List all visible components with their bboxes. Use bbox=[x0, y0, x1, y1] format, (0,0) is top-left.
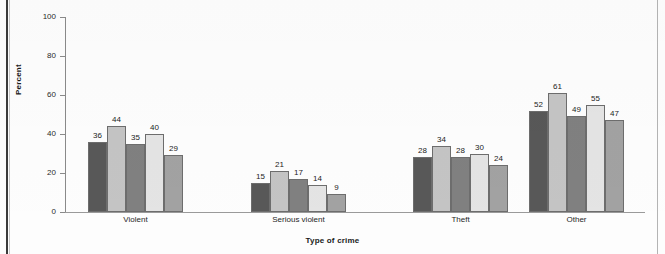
bar-value-label: 28 bbox=[456, 146, 465, 156]
y-tick-label: 40 bbox=[47, 128, 56, 139]
bar-group-other: 5261495547Other bbox=[529, 17, 624, 212]
bar-value-label: 14 bbox=[313, 174, 322, 184]
bar-3[interactable]: 28 bbox=[451, 157, 470, 212]
bar-group-bars: 152117149 bbox=[251, 17, 346, 212]
chart-page: Percent 020406080100 3644354029Violent15… bbox=[0, 0, 665, 254]
bar-value-label: 24 bbox=[494, 154, 503, 164]
bar-value-label: 34 bbox=[437, 135, 446, 145]
y-tick-label: 20 bbox=[47, 167, 56, 178]
bar-slot: 14 bbox=[308, 17, 327, 212]
x-axis-line bbox=[65, 212, 645, 213]
y-tick-label: 0 bbox=[52, 206, 56, 217]
bar-3[interactable]: 35 bbox=[126, 144, 145, 212]
bar-2[interactable]: 34 bbox=[432, 146, 451, 212]
bar-group-violent: 3644354029Violent bbox=[88, 17, 183, 212]
bar-value-label: 30 bbox=[475, 143, 484, 153]
bar-slot: 24 bbox=[489, 17, 508, 212]
page-edge-left-light bbox=[9, 0, 10, 254]
bar-group-theft: 2834283024Theft bbox=[413, 17, 508, 212]
y-tick-mark bbox=[60, 17, 65, 18]
bar-value-label: 28 bbox=[418, 146, 427, 156]
bar-slot: 17 bbox=[289, 17, 308, 212]
page-edge-right bbox=[657, 0, 658, 254]
bar-1[interactable]: 52 bbox=[529, 111, 548, 212]
bar-slot: 61 bbox=[548, 17, 567, 212]
y-tick-label: 60 bbox=[47, 89, 56, 100]
bar-slot: 35 bbox=[126, 17, 145, 212]
y-axis-title: Percent bbox=[14, 64, 23, 95]
category-label: Serious violent bbox=[251, 215, 346, 224]
category-label: Other bbox=[529, 215, 624, 224]
bar-value-label: 21 bbox=[275, 160, 284, 170]
category-label: Violent bbox=[88, 215, 183, 224]
bar-slot: 28 bbox=[413, 17, 432, 212]
bar-slot: 49 bbox=[567, 17, 586, 212]
bar-value-label: 29 bbox=[169, 144, 178, 154]
y-tick-mark bbox=[60, 95, 65, 96]
bar-5[interactable]: 29 bbox=[164, 155, 183, 212]
bar-value-label: 52 bbox=[534, 100, 543, 110]
x-axis-title: Type of crime bbox=[0, 236, 665, 245]
bar-1[interactable]: 15 bbox=[251, 183, 270, 212]
bar-slot: 15 bbox=[251, 17, 270, 212]
bar-1[interactable]: 36 bbox=[88, 142, 107, 212]
bar-value-label: 55 bbox=[591, 94, 600, 104]
y-tick-mark bbox=[60, 212, 65, 213]
bar-value-label: 9 bbox=[334, 183, 338, 193]
bar-slot: 28 bbox=[451, 17, 470, 212]
bar-value-label: 47 bbox=[610, 109, 619, 119]
bar-4[interactable]: 40 bbox=[145, 134, 164, 212]
bar-slot: 40 bbox=[145, 17, 164, 212]
bar-4[interactable]: 55 bbox=[586, 105, 605, 212]
bar-5[interactable]: 47 bbox=[605, 120, 624, 212]
category-label: Theft bbox=[413, 215, 508, 224]
bar-value-label: 40 bbox=[150, 123, 159, 133]
bar-value-label: 44 bbox=[112, 115, 121, 125]
bar-slot: 52 bbox=[529, 17, 548, 212]
y-tick-label: 80 bbox=[47, 50, 56, 61]
page-edge-left-dark bbox=[6, 0, 8, 254]
bar-value-label: 36 bbox=[93, 131, 102, 141]
bar-2[interactable]: 44 bbox=[107, 126, 126, 212]
y-tick-mark bbox=[60, 173, 65, 174]
bar-3[interactable]: 49 bbox=[567, 116, 586, 212]
bar-2[interactable]: 61 bbox=[548, 93, 567, 212]
bar-group-bars: 3644354029 bbox=[88, 17, 183, 212]
bar-slot: 44 bbox=[107, 17, 126, 212]
bar-4[interactable]: 14 bbox=[308, 185, 327, 212]
y-tick-mark bbox=[60, 134, 65, 135]
bar-slot: 55 bbox=[586, 17, 605, 212]
bar-slot: 34 bbox=[432, 17, 451, 212]
bar-slot: 30 bbox=[470, 17, 489, 212]
bar-slot: 21 bbox=[270, 17, 289, 212]
bar-value-label: 15 bbox=[256, 172, 265, 182]
bar-value-label: 49 bbox=[572, 105, 581, 115]
bar-group-bars: 2834283024 bbox=[413, 17, 508, 212]
bar-value-label: 17 bbox=[294, 168, 303, 178]
plot-area: 020406080100 3644354029Violent152117149S… bbox=[65, 17, 641, 212]
bar-5[interactable]: 9 bbox=[327, 194, 346, 212]
bar-group-bars: 5261495547 bbox=[529, 17, 624, 212]
bar-slot: 9 bbox=[327, 17, 346, 212]
bar-value-label: 61 bbox=[553, 82, 562, 92]
bar-slot: 47 bbox=[605, 17, 624, 212]
bar-slot: 29 bbox=[164, 17, 183, 212]
y-tick-label: 100 bbox=[43, 11, 56, 22]
bar-3[interactable]: 17 bbox=[289, 179, 308, 212]
y-tick-mark bbox=[60, 56, 65, 57]
bar-2[interactable]: 21 bbox=[270, 171, 289, 212]
bar-1[interactable]: 28 bbox=[413, 157, 432, 212]
bar-5[interactable]: 24 bbox=[489, 165, 508, 212]
bar-4[interactable]: 30 bbox=[470, 154, 489, 213]
bar-value-label: 35 bbox=[131, 133, 140, 143]
bar-group-serious-violent: 152117149Serious violent bbox=[251, 17, 346, 212]
bar-slot: 36 bbox=[88, 17, 107, 212]
